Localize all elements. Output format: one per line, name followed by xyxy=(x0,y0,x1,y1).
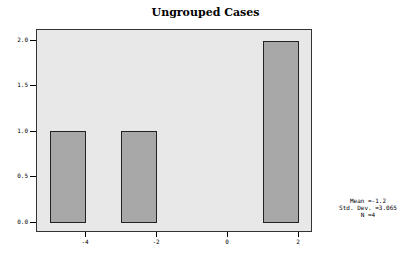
y-tick xyxy=(30,222,36,223)
y-tick-label: 1.5 xyxy=(4,81,28,88)
x-tick xyxy=(227,232,228,237)
chart-title: Ungrouped Cases xyxy=(0,6,411,19)
x-tick-label: -4 xyxy=(75,238,95,245)
summary-stats: Mean =-1.2 Std. Dev. =3.065 N =4 xyxy=(330,197,406,218)
x-tick-label: 0 xyxy=(217,238,237,245)
x-tick xyxy=(298,232,299,237)
y-tick xyxy=(30,176,36,177)
stat-mean: Mean =-1.2 xyxy=(330,197,406,204)
y-tick xyxy=(30,85,36,86)
x-tick-label: -2 xyxy=(146,238,166,245)
stat-std-dev: Std. Dev. =3.065 xyxy=(330,204,406,211)
y-tick-label: 2.0 xyxy=(4,36,28,43)
y-tick-label: 0.5 xyxy=(4,172,28,179)
stat-n: N =4 xyxy=(330,211,406,218)
y-tick xyxy=(30,40,36,41)
bar-pos2 xyxy=(263,41,299,223)
y-tick xyxy=(30,131,36,132)
y-tick-label: 1.0 xyxy=(4,127,28,134)
plot-area xyxy=(36,29,312,232)
bar-neg2 xyxy=(121,131,157,223)
y-tick-label: 0.0 xyxy=(4,218,28,225)
x-tick xyxy=(85,232,86,237)
bar-neg4 xyxy=(50,131,86,223)
x-tick-label: 2 xyxy=(288,238,308,245)
x-tick xyxy=(156,232,157,237)
